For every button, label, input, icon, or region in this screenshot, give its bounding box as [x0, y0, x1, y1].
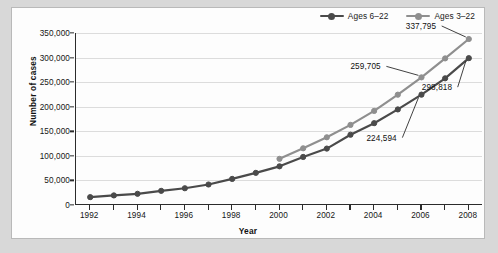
data-point — [111, 193, 116, 198]
data-point — [348, 122, 353, 127]
data-point — [443, 76, 448, 81]
data-point — [419, 75, 424, 80]
x-tick-mark — [420, 205, 421, 210]
data-point — [324, 135, 329, 140]
x-tick-label: 1996 — [175, 211, 194, 220]
data-point — [88, 195, 93, 200]
data-point — [301, 154, 306, 159]
x-tick-mark — [373, 205, 374, 210]
x-tick-mark — [397, 205, 398, 210]
data-point — [324, 146, 329, 151]
x-tick-mark — [279, 205, 280, 210]
legend-label-ages-3-22: Ages 3–22 — [434, 11, 475, 21]
legend-item-ages-3-22[interactable]: Ages 3–22 — [406, 11, 475, 21]
data-point — [372, 108, 377, 113]
data-point — [135, 191, 140, 196]
data-point — [395, 107, 400, 112]
chart-legend: Ages 6–22 Ages 3–22 — [320, 11, 475, 21]
x-tick-mark — [160, 205, 161, 210]
x-tick-label: 2004 — [364, 211, 383, 220]
x-tick-label: 2000 — [269, 211, 288, 220]
data-point — [466, 36, 471, 41]
data-point — [419, 92, 424, 97]
x-axis-title: Year — [12, 226, 484, 236]
x-tick-mark — [184, 205, 185, 210]
y-tick-mark — [70, 106, 74, 107]
data-label: 224,594 — [366, 134, 396, 143]
chart-figure: Ages 6–22 Ages 3–22 050,000100,000150,00… — [11, 7, 485, 239]
x-tick-mark — [302, 205, 303, 210]
data-point — [277, 164, 282, 169]
y-tick-mark — [70, 204, 74, 205]
y-tick-mark — [70, 155, 74, 156]
y-axis-tick-marks — [12, 33, 75, 205]
legend-label-ages-6-22: Ages 6–22 — [348, 11, 389, 21]
plot-area — [75, 33, 482, 205]
data-point — [395, 92, 400, 97]
y-tick-mark — [70, 57, 74, 58]
legend-marker-icon — [328, 13, 335, 20]
data-point — [159, 188, 164, 193]
x-tick-mark — [89, 205, 90, 210]
data-point — [230, 176, 235, 181]
x-tick-label: 2008 — [458, 211, 477, 220]
data-label: 298,818 — [422, 83, 452, 92]
data-point — [301, 146, 306, 151]
data-point — [348, 132, 353, 137]
data-label: 259,705 — [350, 62, 380, 71]
legend-swatch-ages-3-22 — [406, 12, 430, 21]
x-tick-mark — [444, 205, 445, 210]
x-tick-label: 2006 — [411, 211, 430, 220]
x-tick-mark — [326, 205, 327, 210]
x-tick-label: 1994 — [127, 211, 146, 220]
x-tick-mark — [255, 205, 256, 210]
data-point — [253, 170, 258, 175]
x-axis-tick-labels: 199219941996199820002002200420062008 — [75, 211, 482, 225]
data-label: 337,795 — [406, 22, 436, 31]
series-line — [90, 58, 469, 197]
x-tick-mark — [113, 205, 114, 210]
x-tick-mark — [468, 205, 469, 210]
legend-swatch-ages-6-22 — [320, 12, 344, 21]
y-tick-mark — [70, 180, 74, 181]
data-point — [372, 121, 377, 126]
data-point — [182, 186, 187, 191]
data-point — [206, 182, 211, 187]
series-canvas — [76, 33, 483, 205]
data-point — [466, 56, 471, 61]
data-point — [443, 56, 448, 61]
x-tick-label: 2002 — [317, 211, 336, 220]
data-point — [277, 156, 282, 161]
y-tick-mark — [70, 131, 74, 132]
x-tick-mark — [137, 205, 138, 210]
x-tick-mark — [231, 205, 232, 210]
x-tick-mark — [349, 205, 350, 210]
x-tick-label: 1992 — [80, 211, 99, 220]
y-tick-mark — [70, 32, 74, 33]
legend-marker-icon — [415, 13, 422, 20]
x-tick-mark — [208, 205, 209, 210]
x-tick-label: 1998 — [222, 211, 241, 220]
y-axis-title: Number of cases — [28, 51, 38, 131]
legend-item-ages-6-22[interactable]: Ages 6–22 — [320, 11, 389, 21]
y-tick-mark — [70, 81, 74, 82]
